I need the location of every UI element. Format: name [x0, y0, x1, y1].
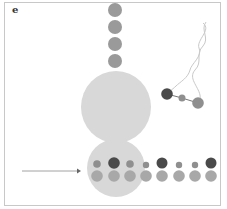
- codon-bead: [205, 170, 217, 182]
- codon-bead: [189, 170, 201, 182]
- direction-arrow: [22, 169, 81, 174]
- amino-acid-bead: [108, 37, 122, 51]
- anticodon-bead: [93, 160, 101, 168]
- amino-acid-bead: [108, 54, 122, 68]
- helix-strand-a: [167, 23, 206, 94]
- codon-bead: [108, 170, 120, 182]
- trna-bead: [179, 95, 186, 102]
- amino-acid-bead: [108, 20, 122, 34]
- anticodon-bead: [108, 157, 120, 169]
- codon-bead: [91, 170, 103, 182]
- amino-acid-bead: [108, 3, 122, 17]
- anticodon-bead: [157, 158, 168, 169]
- mrna-helix: [167, 22, 206, 103]
- anticodon-bead: [206, 158, 217, 169]
- codon-bead: [124, 170, 136, 182]
- trna-complex: [161, 88, 204, 109]
- anticodon-bead: [192, 162, 198, 168]
- trna-bead: [161, 88, 173, 100]
- codon-bead: [156, 170, 168, 182]
- anticodon-bead: [126, 160, 134, 168]
- codon-bead: [140, 170, 152, 182]
- trna-bead: [192, 97, 204, 109]
- codon-bead: [173, 170, 185, 182]
- anticodon-bead: [143, 162, 149, 168]
- anticodon-bead: [176, 162, 182, 168]
- arrow-head-icon: [77, 169, 81, 174]
- polypeptide-chain: [108, 3, 122, 68]
- ribosome-translation-diagram: [0, 0, 227, 209]
- large-subunit: [81, 71, 151, 143]
